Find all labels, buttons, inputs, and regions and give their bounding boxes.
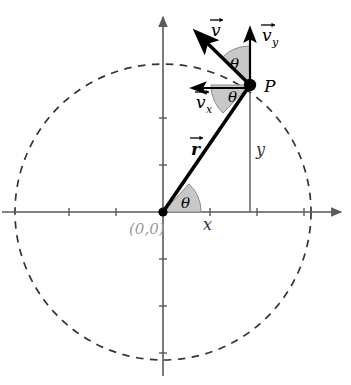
- angle-lower-p-label: θ: [228, 88, 237, 106]
- angle-origin-label: θ: [181, 194, 190, 212]
- velocity-y-label: v y: [261, 23, 279, 49]
- svg-text:r: r: [191, 139, 201, 159]
- angle-upper-p-label: θ: [230, 55, 239, 73]
- velocity-vector-label: v: [210, 18, 223, 40]
- axis-ticks: [69, 118, 304, 353]
- point-p-label: P: [263, 76, 276, 96]
- velocity-y-subscript: y: [271, 36, 279, 49]
- y-component-label: y: [255, 140, 266, 159]
- svg-text:v: v: [211, 20, 221, 40]
- svg-text:v: v: [196, 92, 206, 112]
- diagram-canvas: P (0,0) x y θ θ θ r v v y v x: [0, 0, 351, 385]
- velocity-x-label: v x: [195, 90, 213, 116]
- point-p-marker: [244, 79, 256, 91]
- x-component-label: x: [203, 215, 212, 234]
- velocity-x-subscript: x: [206, 103, 213, 116]
- origin-marker: [158, 207, 167, 216]
- svg-text:v: v: [262, 25, 272, 45]
- physics-diagram: P (0,0) x y θ θ θ r v v y v x: [0, 0, 351, 385]
- origin-label: (0,0): [129, 220, 165, 238]
